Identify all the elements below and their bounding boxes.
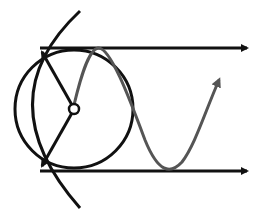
diagram-container: [0, 0, 255, 223]
radius-up-arrow: [42, 52, 72, 105]
sine-wave: [74, 48, 219, 169]
circle-sine-diagram: [0, 0, 255, 223]
radius-down-arrow: [42, 113, 72, 166]
center-point: [69, 104, 79, 114]
